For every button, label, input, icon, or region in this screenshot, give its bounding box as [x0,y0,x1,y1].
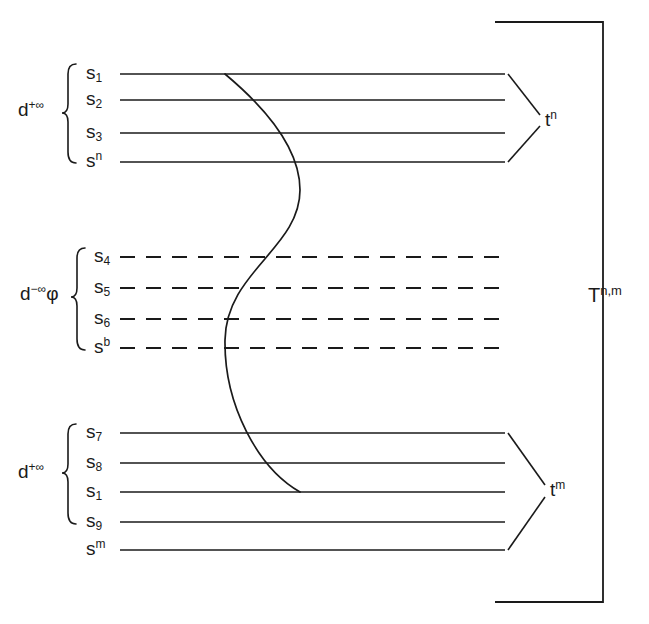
converge-label-tn: tn [545,110,557,129]
middle-group-lines [120,257,500,348]
state-label-sm: sm [86,539,106,558]
bottom-group-brace [62,424,76,524]
state-label-s8: s8 [86,452,102,471]
state-sub: 6 [104,316,111,330]
state-sub: 5 [104,285,111,299]
outer-label-base: T [588,284,600,306]
state-base: s [86,480,96,501]
state-base: s [86,150,96,171]
state-label-sb: sb [94,337,110,356]
state-label-s1-top: s1 [86,63,102,82]
group-label-top-base: d [18,99,29,120]
state-base: s [86,451,96,472]
bottom-group-lines [120,433,505,550]
state-base: s [86,88,96,109]
group-label-middle-base: d [20,283,31,304]
state-label-sn: sn [86,151,102,170]
state-sub: 1 [96,489,103,503]
bottom-converge-lower-stroke [508,497,545,550]
state-sub: 9 [96,519,103,533]
group-label-top: d+∞ [18,100,44,119]
state-sub: 7 [96,430,103,444]
group-label-middle-sup: −∞ [31,282,47,296]
state-sub: 2 [96,97,103,111]
state-label-s9: s9 [86,511,102,530]
state-sub: 3 [96,130,103,144]
diagram-canvas: d+∞ s1 s2 s3 sn tn d−∞φ s4 s5 s6 sb d+∞ … [0,0,649,624]
outer-label-sup: n,m [600,283,622,298]
state-sup: b [104,335,111,349]
group-label-middle: d−∞φ [20,284,58,303]
top-group-brace [62,64,76,163]
converge-label-tm: tm [550,480,565,499]
outer-bracket-label: Tn,m [588,285,622,305]
state-sub: 8 [96,460,103,474]
state-label-s4: s4 [94,246,110,265]
state-label-s1-bottom: s1 [86,481,102,500]
group-label-top-sup: +∞ [29,98,45,112]
bottom-converge-marker [508,433,545,550]
state-label-s6: s6 [94,308,110,327]
state-base: s [86,538,96,559]
state-sup: m [96,537,106,551]
state-label-s2: s2 [86,89,102,108]
state-base: s [86,62,96,83]
s-curve-trace [225,74,300,492]
middle-group-brace [71,248,85,350]
top-converge-marker [508,74,540,162]
group-label-bottom-base: d [18,461,29,482]
state-base: s [94,307,104,328]
state-sub: 1 [96,71,103,85]
state-label-s3: s3 [86,122,102,141]
bottom-converge-upper-stroke [508,433,545,485]
top-converge-lower-stroke [508,126,540,162]
phi-symbol: φ [46,283,58,304]
state-base: s [94,276,104,297]
group-label-bottom: d+∞ [18,462,44,481]
state-base: s [86,421,96,442]
state-base: s [86,121,96,142]
state-label-s7: s7 [86,422,102,441]
top-converge-upper-stroke [508,74,540,115]
state-base: s [94,336,104,357]
state-base: s [86,510,96,531]
converge-sup: m [555,478,565,492]
group-label-bottom-sup: +∞ [29,460,45,474]
state-sub: 4 [104,254,111,268]
state-label-s5: s5 [94,277,110,296]
state-base: s [94,245,104,266]
converge-sup: n [550,108,557,122]
top-group-lines [120,74,505,162]
state-sup: n [96,149,103,163]
